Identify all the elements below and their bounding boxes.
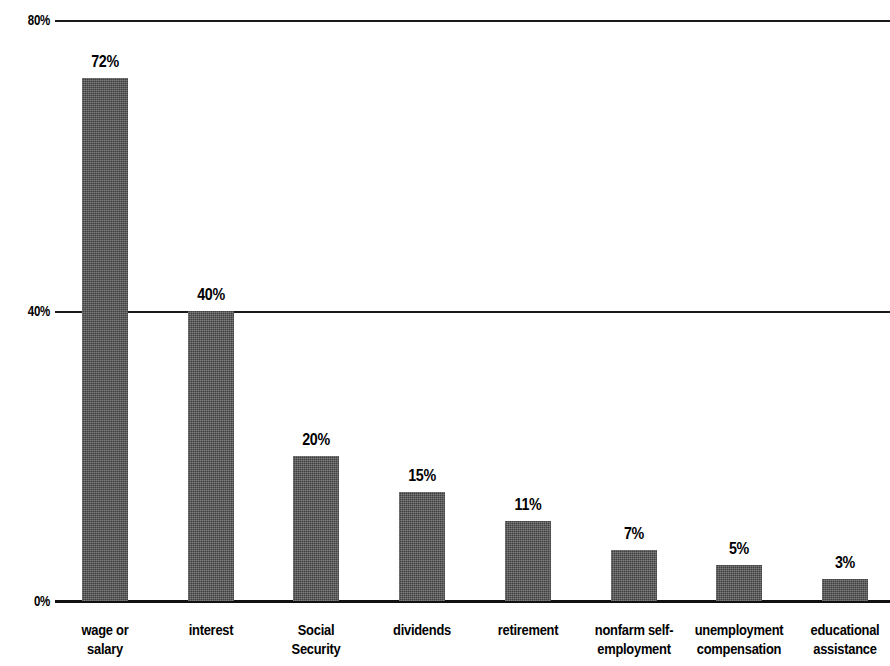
x-axis-category-label: interest xyxy=(150,620,270,639)
bar xyxy=(822,579,868,601)
bar-group: 15% xyxy=(399,0,445,666)
x-axis-category-label: educational assistance xyxy=(785,620,890,658)
bar-group: 20% xyxy=(293,0,339,666)
bar xyxy=(399,492,445,601)
bar xyxy=(611,550,657,601)
bar-chart: 80% 40% 0% 72%wage or salary40%interest2… xyxy=(0,0,890,666)
bar-value-label: 20% xyxy=(282,431,351,448)
bar-value-label: 11% xyxy=(493,496,562,513)
x-axis-category-label: nonfarm self- employment xyxy=(573,620,693,658)
plot-area: 72%wage or salary40%interest20%Social Se… xyxy=(0,0,890,666)
x-axis-category-label: unemployment compensation xyxy=(679,620,799,658)
x-axis-category-label: retirement xyxy=(468,620,588,639)
bar-value-label: 3% xyxy=(810,554,879,571)
bar-value-label: 40% xyxy=(176,286,245,303)
bar-group: 3% xyxy=(822,0,868,666)
bar-group: 72% xyxy=(82,0,128,666)
bar-value-label: 7% xyxy=(599,525,668,542)
bar xyxy=(505,521,551,601)
bar xyxy=(188,311,234,602)
bar-group: 7% xyxy=(611,0,657,666)
bar xyxy=(716,565,762,601)
x-axis-category-label: Social Security xyxy=(256,620,376,658)
bar xyxy=(293,456,339,601)
bar-value-label: 5% xyxy=(705,540,774,557)
x-axis-category-label: dividends xyxy=(362,620,482,639)
bar-group: 11% xyxy=(505,0,551,666)
bar-group: 40% xyxy=(188,0,234,666)
bar xyxy=(82,78,128,601)
bar-value-label: 72% xyxy=(71,53,140,70)
x-axis-category-label: wage or salary xyxy=(45,620,165,658)
bar-value-label: 15% xyxy=(388,467,457,484)
bar-group: 5% xyxy=(716,0,762,666)
